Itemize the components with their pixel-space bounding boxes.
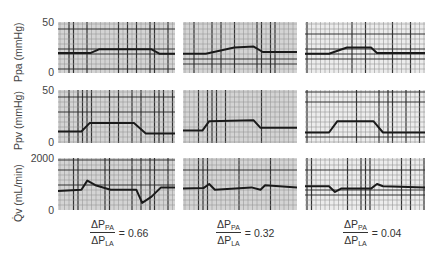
tick-ppv-max: 50: [14, 84, 54, 96]
recording-panel: [58, 22, 175, 73]
recording-panel: [183, 22, 297, 73]
recording-panel: [305, 22, 425, 73]
recording-panel: [183, 158, 297, 210]
tick-qv-min: 0: [14, 204, 54, 216]
tick-ppv-min: 0: [14, 136, 54, 148]
recording-panel: [305, 158, 425, 210]
tick-ppa-max: 50: [14, 16, 54, 28]
recording-panel: [58, 158, 175, 210]
recording-panel: [305, 90, 425, 143]
trace-line: [58, 49, 175, 54]
tick-qv-max: 2000: [14, 152, 54, 164]
trace-line: [58, 181, 175, 203]
recording-panel: [183, 90, 297, 143]
tick-ppa-min: 0: [14, 66, 54, 78]
trace-line: [183, 47, 297, 54]
ratio-label-3: ΔPPAΔPLA = 0.04: [343, 218, 401, 247]
ratio-label-1: ΔPPAΔPLA = 0.66: [90, 218, 148, 247]
ratio-label-2: ΔPPAΔPLA = 0.32: [216, 218, 274, 247]
recording-panel: [58, 90, 175, 143]
